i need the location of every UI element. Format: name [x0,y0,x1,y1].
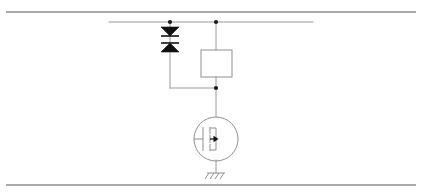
upper-clamp-diode [161,27,179,36]
schematic-canvas [0,0,422,196]
gate-drive-node [214,86,218,90]
ground-hatch-2 [210,173,214,179]
ground-hatch-3 [215,173,219,179]
clamp-top-node [168,20,172,24]
lower-clamp-diode-triangle [161,43,179,52]
circuit-schematic [0,0,422,196]
ground-hatch-4 [220,173,224,179]
rail-branch-node [214,20,218,24]
ground-hatch-1 [205,173,209,179]
mosfet-body-arrow-icon [210,136,219,142]
resistor-box [201,50,232,77]
lower-clamp-diode [161,43,179,52]
upper-clamp-diode-triangle [161,27,179,36]
chassis-ground-symbol [205,173,225,179]
